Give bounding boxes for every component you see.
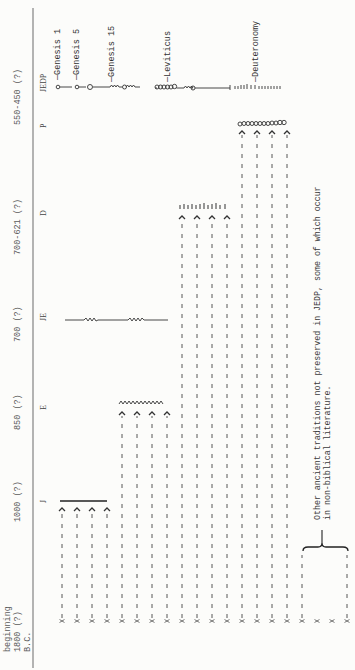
arrowheads [59, 131, 290, 511]
jedp-deuteronomy-ticks [235, 84, 280, 89]
p-source-circles [238, 120, 286, 126]
origin-x-markers [60, 620, 350, 623]
diagram-canvas [0, 0, 355, 670]
je-combined-line [65, 318, 168, 321]
d-source-ticks [180, 203, 225, 209]
e-source-zigzag [119, 401, 163, 404]
jedp-combined-line [56, 84, 230, 90]
other-traditions-brace [303, 543, 348, 551]
